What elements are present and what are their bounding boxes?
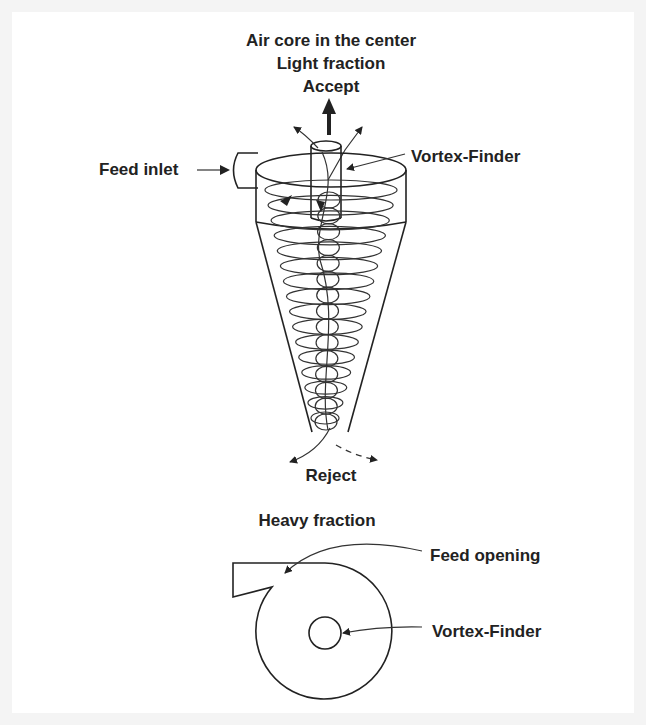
reject-arrow-right [336,445,377,460]
outer-spiral-turn [265,180,397,200]
top-view [233,563,392,699]
outflow-arrow-left [294,127,318,148]
inlet-pipe [234,153,259,188]
label-reject: Reject [305,466,356,485]
top-view-housing [233,563,392,699]
accept-arrow [322,98,336,135]
label-vortex-finder-bottom: Vortex-Finder [432,622,542,641]
label-feed-inlet: Feed inlet [99,160,179,179]
reject-arrow-left [290,428,330,462]
hydrocyclone-diagram: Air core in the center Light fraction Ac… [0,0,646,725]
vortex-finder-bottom-pointer [343,627,422,633]
top-view-vortex-finder [309,617,341,649]
label-vortex-finder-top: Vortex-Finder [411,147,521,166]
label-light-fraction: Light fraction [277,54,386,73]
label-accept: Accept [303,77,360,96]
inner-vortex-spiral [315,152,340,430]
feed-opening-pointer [285,544,422,573]
label-feed-opening: Feed opening [430,546,541,565]
inner-spiral-loop [316,319,338,335]
outer-spiral-turn [293,319,363,334]
inner-spiral-loop [317,271,339,287]
cone-left-wall [256,222,312,432]
inner-spiral-loop [317,303,339,319]
cylinder-top-ellipse [256,153,406,187]
air-core-strand [319,152,329,430]
outer-spiral-turn [296,335,359,350]
cone-right-wall [348,222,406,432]
label-air-core: Air core in the center [246,31,416,50]
outer-vortex-spiral [265,180,397,424]
inner-spiral-loop [315,382,337,398]
label-heavy-fraction: Heavy fraction [258,511,375,530]
inner-spiral-loop [316,335,338,351]
